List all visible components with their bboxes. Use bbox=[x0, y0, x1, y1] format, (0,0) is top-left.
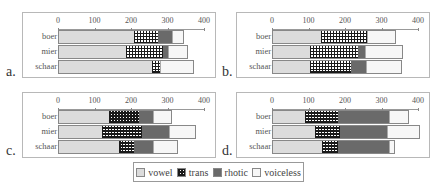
bar-segment-rhotic bbox=[340, 126, 387, 138]
category-label: schaar bbox=[249, 61, 271, 71]
category-label: mier bbox=[41, 126, 57, 136]
bar-segment-voiceless bbox=[366, 61, 401, 73]
chart-panel: 0100200300400boermierschaar bbox=[22, 92, 216, 158]
stacked-bar-boer bbox=[272, 30, 396, 44]
bar-segment-rhotic bbox=[158, 31, 172, 43]
stacked-bar-boer bbox=[58, 110, 172, 124]
panel-label: d. bbox=[222, 143, 233, 159]
stacked-bar-schaar bbox=[272, 140, 395, 154]
bar-segment-vowel bbox=[59, 141, 119, 153]
bar-segment-voiceless bbox=[168, 46, 187, 58]
x-tick-label: 300 bbox=[376, 16, 388, 25]
bar-segment-trans bbox=[322, 141, 339, 153]
category-label: mier bbox=[255, 46, 271, 56]
x-tick-label: 0 bbox=[270, 16, 274, 25]
stacked-bar-mier bbox=[272, 45, 403, 59]
bar-segment-voiceless bbox=[172, 31, 183, 43]
legend-label: rhotic bbox=[225, 167, 248, 178]
bar-segment-trans bbox=[126, 46, 163, 58]
legend-label: vowel bbox=[148, 167, 172, 178]
x-tick-label: 200 bbox=[339, 96, 351, 105]
legend-item-voiceless: voiceless bbox=[252, 167, 301, 178]
bar-segment-trans bbox=[310, 46, 358, 58]
x-tick-label: 400 bbox=[412, 96, 424, 105]
stacked-bar-schaar bbox=[58, 60, 194, 74]
bar-segment-trans bbox=[119, 141, 133, 153]
bar-segment-vowel bbox=[59, 126, 102, 138]
stacked-bar-schaar bbox=[58, 140, 178, 154]
rhotic-swatch-icon bbox=[213, 168, 222, 177]
category-label: schaar bbox=[35, 141, 57, 151]
category-label: boer bbox=[42, 31, 57, 41]
x-tick-label: 0 bbox=[56, 96, 60, 105]
x-tick-label: 0 bbox=[270, 96, 274, 105]
x-tick-label: 400 bbox=[412, 16, 424, 25]
x-tick-label: 0 bbox=[56, 16, 60, 25]
bar-segment-rhotic bbox=[351, 61, 366, 73]
chart-panel: 0100200300400boermierschaar bbox=[236, 92, 430, 158]
category-label: boer bbox=[256, 111, 271, 121]
bar-segment-vowel bbox=[273, 111, 305, 123]
x-tick-label: 200 bbox=[125, 96, 137, 105]
x-tick-label: 200 bbox=[125, 16, 137, 25]
bar-segment-voiceless bbox=[169, 126, 195, 138]
bar-segment-vowel bbox=[273, 126, 315, 138]
stacked-bar-boer bbox=[58, 30, 184, 44]
category-label: mier bbox=[255, 126, 271, 136]
stacked-bar-schaar bbox=[272, 60, 402, 74]
panel-label: c. bbox=[6, 143, 16, 159]
legend-label: trans bbox=[189, 167, 208, 178]
bar-segment-trans bbox=[315, 126, 341, 138]
voiceless-swatch-icon bbox=[252, 168, 261, 177]
legend-item-rhotic: rhotic bbox=[213, 167, 248, 178]
bar-segment-rhotic bbox=[338, 111, 388, 123]
category-label: boer bbox=[256, 31, 271, 41]
bar-segment-vowel bbox=[273, 31, 321, 43]
x-tick-mark bbox=[204, 108, 205, 111]
bar-segment-vowel bbox=[273, 141, 322, 153]
x-tick-mark bbox=[204, 28, 205, 31]
bar-segment-rhotic bbox=[338, 141, 388, 153]
bar-segment-trans bbox=[102, 126, 142, 138]
bar-segment-voiceless bbox=[389, 111, 408, 123]
bar-segment-voiceless bbox=[389, 141, 394, 153]
stacked-bar-mier bbox=[58, 125, 196, 139]
bar-segment-vowel bbox=[59, 46, 126, 58]
bar-segment-voiceless bbox=[365, 46, 402, 58]
bar-segment-trans bbox=[109, 111, 138, 123]
x-tick-label: 300 bbox=[162, 96, 174, 105]
bar-segment-voiceless bbox=[387, 126, 419, 138]
bar-segment-vowel bbox=[59, 31, 134, 43]
bar-segment-voiceless bbox=[367, 31, 395, 43]
vowel-swatch-icon bbox=[136, 168, 145, 177]
x-tick-mark bbox=[418, 108, 419, 111]
bar-segment-rhotic bbox=[139, 111, 153, 123]
legend: vowel trans rhotic voiceless bbox=[133, 162, 304, 182]
x-tick-label: 100 bbox=[89, 96, 101, 105]
x-tick-label: 100 bbox=[89, 16, 101, 25]
bar-segment-trans bbox=[305, 111, 339, 123]
bar-segment-vowel bbox=[273, 61, 310, 73]
x-tick-mark bbox=[418, 28, 419, 31]
category-label: schaar bbox=[249, 141, 271, 151]
category-label: schaar bbox=[35, 61, 57, 71]
x-tick-label: 200 bbox=[339, 16, 351, 25]
category-label: mier bbox=[41, 46, 57, 56]
stacked-bar-boer bbox=[272, 110, 409, 124]
legend-item-trans: trans bbox=[177, 167, 208, 178]
x-tick-label: 100 bbox=[303, 16, 315, 25]
category-label: boer bbox=[42, 111, 57, 121]
panel-label: b. bbox=[222, 64, 233, 80]
bar-segment-trans bbox=[321, 31, 367, 43]
legend-label: voiceless bbox=[264, 167, 301, 178]
panel-label: a. bbox=[6, 64, 16, 80]
bar-segment-voiceless bbox=[153, 111, 171, 123]
stacked-bar-mier bbox=[272, 125, 420, 139]
x-tick-label: 400 bbox=[198, 96, 210, 105]
bar-segment-rhotic bbox=[358, 46, 365, 58]
stacked-bar-mier bbox=[58, 45, 188, 59]
x-tick-label: 300 bbox=[162, 16, 174, 25]
bar-segment-vowel bbox=[273, 46, 310, 58]
x-tick-label: 400 bbox=[198, 16, 210, 25]
bar-segment-trans bbox=[152, 61, 161, 73]
